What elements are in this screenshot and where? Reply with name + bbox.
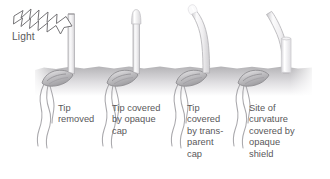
specimen-4-shield-top bbox=[281, 37, 291, 40]
light-label: Light bbox=[12, 31, 35, 42]
specimen-2-stem bbox=[133, 22, 140, 74]
specimen-3-stem-curved bbox=[192, 11, 210, 73]
specimen-4-opaque-shield bbox=[281, 39, 291, 73]
specimen-1-label: Tip removed bbox=[58, 103, 94, 126]
specimen-2-label: Tip covered by opaque cap bbox=[112, 103, 160, 137]
phototropism-figure: Light Tip removed Tip covered by opaque … bbox=[0, 0, 330, 179]
specimen-2-opaque-cap bbox=[132, 10, 141, 24]
specimen-4-label: Site of curvature covered by opaque shie… bbox=[249, 103, 295, 160]
specimen-3-label: Tip covered by trans- parent cap bbox=[187, 103, 223, 160]
